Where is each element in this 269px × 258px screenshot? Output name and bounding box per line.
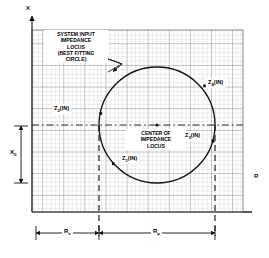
rs-subscript: s [68,231,70,236]
label-z1in: Z1(IN) [120,154,139,164]
axis-label-x: X [26,5,30,11]
callout-line-5: CIRCLE) [46,56,106,62]
center-of-impedance-locus-label: CENTER OF IMPEDANCE LOCUS [126,129,186,150]
label-z2in: Z2(IN) [52,104,71,114]
z3-paren: (IN) [191,132,200,138]
label-z4in: Z4(IN) [206,78,225,88]
dimension-label-rp: Rp [151,227,162,237]
dimension-label-x0: X0 [8,148,18,158]
axis-label-r: R [254,173,259,179]
point-z1 [112,163,115,166]
impedance-locus-figure: X R SYSTEM INPUT IMPEDANCE LOCUS (BEST F… [0,0,269,258]
label-z3in: Z3(IN) [183,131,202,141]
z2-paren: (IN) [60,105,69,111]
x0-subscript: 0 [14,152,16,157]
rp-subscript: p [157,231,160,236]
point-z2 [100,112,103,115]
point-center [156,124,159,127]
z4-paren: (IN) [214,79,223,85]
dimension-label-rs: Rs [62,227,73,237]
z1-paren: (IN) [128,155,137,161]
center-label-line-3: LOCUS [128,143,184,149]
callout-system-input-impedance-locus: SYSTEM INPUT IMPEDANCE LOCUS (BEST FITTI… [44,30,108,63]
point-z3 [212,140,215,143]
